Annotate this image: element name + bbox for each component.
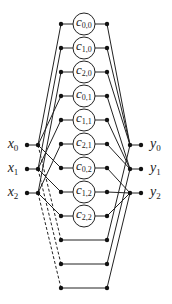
row-right-node-4	[105, 118, 109, 122]
row-left-node-6	[59, 166, 63, 170]
input-fanout-node-x2	[36, 191, 40, 195]
row-left-node-9	[59, 238, 63, 242]
input-node-x0	[25, 143, 29, 147]
input-edge-row-6	[38, 145, 61, 168]
row-right-node-9	[105, 238, 109, 242]
output-merge-node-y0	[128, 143, 132, 147]
output-edge-row-10	[107, 169, 130, 264]
row-left-node-0	[59, 22, 63, 26]
row-left-node-3	[59, 94, 63, 98]
input-edge-row-10	[38, 169, 61, 264]
row-right-node-6	[105, 166, 109, 170]
row-right-node-3	[105, 94, 109, 98]
row-right-node-10	[105, 262, 109, 266]
input-label-x0: x0	[7, 136, 19, 153]
input-node-x1	[25, 167, 29, 171]
output-edge-row-8	[107, 193, 130, 216]
row-right-node-0	[105, 22, 109, 26]
row-right-node-7	[105, 190, 109, 194]
input-edge-row-3	[38, 96, 61, 145]
output-merge-node-y1	[128, 167, 132, 171]
cells-layer: c0,0c1,0c2,0c0,1c1,1c2,1c0,2c1,2c2,2	[73, 13, 95, 227]
input-fanout-node-x1	[36, 167, 40, 171]
row-left-node-7	[59, 190, 63, 194]
row-right-node-8	[105, 214, 109, 218]
input-edge-row-8	[38, 193, 61, 216]
row-left-node-11	[59, 286, 63, 290]
row-left-node-5	[59, 142, 63, 146]
input-edge-row-9	[38, 145, 61, 240]
input-fanout-node-x0	[36, 143, 40, 147]
input-label-x1: x1	[7, 160, 19, 177]
output-edge-row-11	[107, 193, 130, 288]
input-edge-row-7	[38, 169, 61, 192]
input-edge-row-2	[38, 72, 61, 193]
row-left-node-2	[59, 70, 63, 74]
row-left-node-8	[59, 214, 63, 218]
input-node-x2	[25, 191, 29, 195]
output-edge-row-6	[107, 168, 130, 193]
input-label-x2: x2	[7, 184, 19, 201]
output-edge-row-1	[107, 48, 130, 145]
row-left-node-1	[59, 46, 63, 50]
crossbar-diagram: c0,0c1,0c2,0c0,1c1,1c2,1c0,2c1,2c2,2 x0x…	[0, 0, 172, 304]
row-left-node-4	[59, 118, 63, 122]
row-right-node-11	[105, 286, 109, 290]
output-merge-node-y2	[128, 191, 132, 195]
output-label-y1: y1	[148, 160, 161, 177]
row-right-node-5	[105, 142, 109, 146]
row-right-node-1	[105, 46, 109, 50]
row-left-node-10	[59, 262, 63, 266]
output-node-y0	[139, 143, 143, 147]
output-label-y2: y2	[148, 184, 161, 201]
output-label-y0: y0	[148, 136, 161, 153]
input-edge-row-11	[38, 193, 61, 288]
output-node-y1	[139, 167, 143, 171]
output-node-y2	[139, 191, 143, 195]
row-right-node-2	[105, 70, 109, 74]
